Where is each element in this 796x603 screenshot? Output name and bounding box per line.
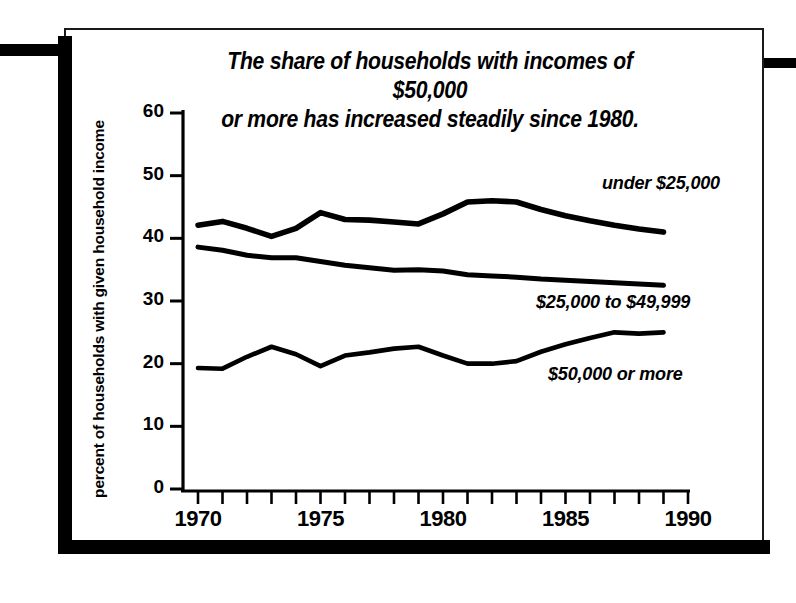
y-tick-label-10: 10 — [118, 413, 164, 435]
series-label-1: $25,000 to $49,999 — [536, 291, 690, 313]
series-line-0 — [198, 201, 664, 237]
series-label-2: $50,000 or more — [548, 363, 683, 385]
series-label-0: under $25,000 — [602, 172, 720, 194]
x-axis-ticks — [198, 491, 688, 504]
chart-series-lines — [198, 201, 664, 369]
y-tick-label-0: 0 — [118, 476, 164, 498]
y-axis-ticks — [170, 113, 183, 489]
y-tick-label-40: 40 — [118, 225, 164, 247]
y-tick-label-50: 50 — [118, 163, 164, 185]
chart-figure: The share of households with incomes of … — [0, 0, 796, 603]
x-tick-label-1990: 1990 — [643, 506, 733, 532]
y-tick-label-20: 20 — [118, 351, 164, 373]
y-tick-label-60: 60 — [118, 100, 164, 122]
x-tick-label-1975: 1975 — [276, 506, 366, 532]
x-tick-label-1970: 1970 — [153, 506, 243, 532]
series-line-1 — [198, 247, 664, 285]
y-tick-label-30: 30 — [118, 288, 164, 310]
x-tick-label-1985: 1985 — [521, 506, 611, 532]
x-tick-label-1980: 1980 — [398, 506, 488, 532]
